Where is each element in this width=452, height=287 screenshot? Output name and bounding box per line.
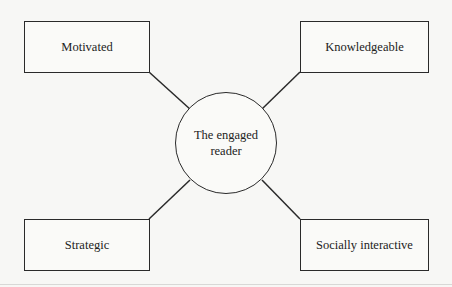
node-label: Motivated [61,40,112,55]
center-label-line1: The engaged [194,127,258,143]
engaged-reader-diagram: Motivated Knowledgeable Strategic Social… [0,0,452,287]
center-node-engaged-reader: The engaged reader [175,92,277,194]
node-socially-interactive: Socially interactive [300,219,429,271]
center-label-line2: reader [194,143,258,159]
node-motivated: Motivated [24,21,150,73]
connector-socially-interactive [262,180,300,219]
connector-motivated [149,72,191,110]
node-strategic: Strategic [24,219,150,271]
connector-strategic [149,180,190,219]
node-knowledgeable: Knowledgeable [300,21,429,73]
node-label: Strategic [65,238,109,253]
page-divider [0,284,452,285]
connector-knowledgeable [262,72,300,109]
node-label: Socially interactive [316,238,413,253]
node-label: Knowledgeable [325,40,403,55]
